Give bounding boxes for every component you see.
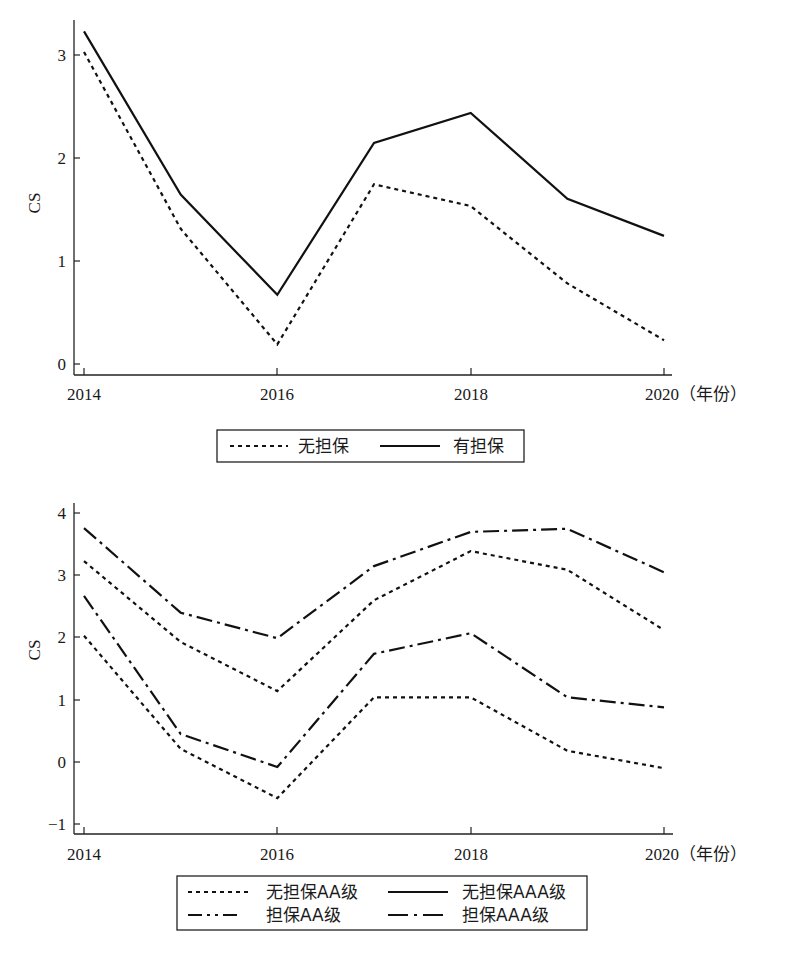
legend-label: 担保AAA级 <box>462 905 549 925</box>
y-tick-label: 3 <box>58 46 67 65</box>
x-tick-label: 2020（年份） <box>645 384 747 404</box>
x-axis-unit: （年份） <box>679 844 747 864</box>
legend-label: 担保AA级 <box>266 905 341 925</box>
y-tick-label: 0 <box>58 753 67 772</box>
legend-top: 无担保 有担保 <box>217 430 524 462</box>
series-secured-aa <box>84 596 664 767</box>
x-tick-label: 2014 <box>67 385 102 404</box>
y-tick-label: 2 <box>58 149 67 168</box>
y-ticks <box>74 513 80 824</box>
figure: 0 1 2 3 2014 2016 2018 2020（年份） CS 无担保 有… <box>0 0 788 969</box>
x-tick-label: 2016 <box>260 845 294 864</box>
series-unsecured <box>84 52 664 344</box>
series-secured <box>84 31 664 294</box>
y-tick-label: 4 <box>58 504 67 523</box>
series-secured-aaa <box>84 528 664 638</box>
x-axis-unit: （年份） <box>679 384 747 404</box>
y-tick-label: −1 <box>48 815 66 834</box>
legend-label: 无担保 <box>298 436 349 456</box>
legend-label: 无担保AA级 <box>266 882 358 902</box>
x-tick-label: 2014 <box>67 845 102 864</box>
series-unsecured-aaa <box>84 551 664 691</box>
x-tick-label: 2018 <box>454 845 488 864</box>
x-tick-label: 2020（年份） <box>645 844 747 864</box>
legend-label: 有担保 <box>453 436 504 456</box>
chart-top: 0 1 2 3 2014 2016 2018 2020（年份） CS 无担保 有… <box>25 20 747 462</box>
legend-bottom: 无担保AA级 无担保AAA级 担保AA级 担保AAA级 <box>177 876 587 930</box>
y-tick-label: 1 <box>58 252 67 271</box>
legend-label: 无担保AAA级 <box>462 882 566 902</box>
x-tick-label: 2018 <box>454 385 488 404</box>
chart-bottom: −1 0 1 2 3 4 2014 2016 2018 2020（年份） CS … <box>25 503 747 930</box>
y-tick-label: 3 <box>58 566 67 585</box>
x-ticks <box>84 827 664 834</box>
x-ticks <box>84 368 664 375</box>
y-axis-title: CS <box>25 640 44 661</box>
y-tick-label: 0 <box>58 355 67 374</box>
x-tick-label: 2016 <box>260 385 294 404</box>
y-ticks <box>74 55 80 364</box>
y-tick-label: 2 <box>58 628 67 647</box>
y-tick-label: 1 <box>58 691 67 710</box>
y-axis-title: CS <box>25 193 44 214</box>
series-unsecured-aa <box>84 636 664 798</box>
